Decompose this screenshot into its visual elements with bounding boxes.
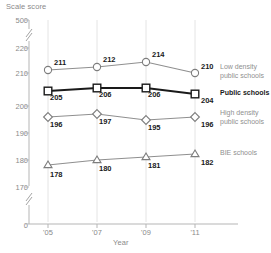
point-label-public-11: 204 xyxy=(201,96,214,105)
gridlines xyxy=(48,20,195,222)
data-point-marker xyxy=(191,69,198,76)
point-label-bie-07: 180 xyxy=(99,164,112,173)
y-axis-break-lower-icon xyxy=(26,193,32,205)
data-point-marker xyxy=(191,150,199,157)
legend-label-high-density-public-schools: High density public schools xyxy=(220,109,264,126)
point-label-public-05: 205 xyxy=(50,93,63,102)
point-label-public-07: 206 xyxy=(99,90,112,99)
point-label-bie-11: 182 xyxy=(201,158,214,167)
legend-label-low-density-public-schools: Low density public schools xyxy=(220,63,264,80)
scale-score-line-chart: Scale score Year 500 220 210 200 190 180… xyxy=(0,0,271,253)
series-low-density-public-schools xyxy=(44,58,198,76)
data-point-marker xyxy=(142,58,149,65)
legend-label-bie-schools: BIE schools xyxy=(220,149,257,158)
plot-area xyxy=(0,0,271,253)
point-label-low-density-11: 210 xyxy=(201,62,214,71)
legend-label-low-density-line2: public schools xyxy=(220,72,264,81)
point-label-high-density-09: 195 xyxy=(148,123,161,132)
y-axis-break-upper-icon xyxy=(26,29,32,41)
point-label-high-density-11: 196 xyxy=(201,120,214,129)
x-tick-marks xyxy=(48,224,195,228)
point-label-low-density-07: 212 xyxy=(103,55,116,64)
point-label-low-density-05: 211 xyxy=(54,58,66,67)
point-label-high-density-05: 196 xyxy=(50,120,63,129)
point-label-bie-05: 178 xyxy=(50,170,63,179)
legend-label-low-density-line1: Low density xyxy=(220,63,264,72)
data-point-marker xyxy=(44,66,51,73)
legend-label-high-density-line1: High density xyxy=(220,109,264,118)
data-point-marker xyxy=(93,63,100,70)
series-high-density-public-schools xyxy=(44,110,200,125)
y-tick-marks xyxy=(25,20,29,224)
data-point-marker xyxy=(191,113,200,122)
series-public-schools xyxy=(44,84,199,98)
point-label-bie-09: 181 xyxy=(148,161,161,170)
point-label-low-density-09: 214 xyxy=(152,50,165,59)
series-bie-schools xyxy=(44,150,199,168)
legend-label-high-density-line2: public schools xyxy=(220,118,264,127)
legend-label-public-schools: Public schools xyxy=(220,89,269,98)
data-point-marker xyxy=(191,90,199,98)
point-label-high-density-07: 197 xyxy=(99,117,112,126)
y-axis-spine xyxy=(26,20,32,224)
point-label-public-09: 206 xyxy=(148,90,161,99)
